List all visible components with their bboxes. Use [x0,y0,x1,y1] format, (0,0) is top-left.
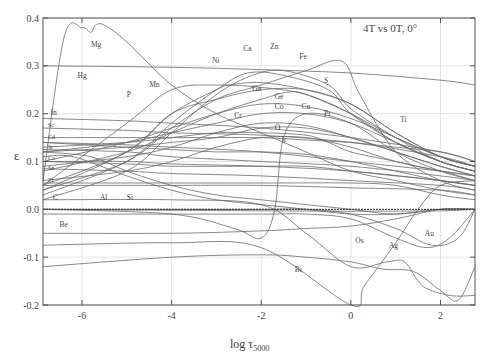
series-line-au [43,209,475,247]
x-axis-label: log τ5000 [230,337,269,353]
element-label-pr: Pr [324,109,331,118]
x-tick-label: 2 [438,310,443,321]
series-line-p [43,88,475,190]
series-line-in [43,119,475,162]
line-chart: -6-4-2020.40.30.20.10.0-0.1-0.2 MgHgMnPC… [0,0,489,362]
axis-ticks: -6-4-2020.40.30.20.10.0-0.1-0.2 [23,13,475,322]
element-label-hg: Hg [78,71,87,80]
element-label-be: Be [60,220,69,229]
element-label-cu: Cu [302,102,311,111]
element-label-co: Co [275,102,284,111]
element-label-bi: Bi [295,265,302,274]
x-axis-label-main: log τ [230,337,253,351]
y-tick-label: 0.4 [27,13,40,24]
y-tick-label: 0.2 [27,108,40,119]
element-label-ir: Ir [281,135,286,144]
element-label-ga: Ga [252,84,261,93]
element-label-os: Os [355,236,363,245]
series-line-bi [43,255,475,301]
element-label-ni: Ni [212,56,220,65]
element-label-left-co: Co [48,155,55,161]
element-label-si: Si [127,193,133,202]
element-label-s: S [324,76,328,85]
element-label-o: O [275,123,281,132]
y-tick-label: 0.0 [27,204,40,215]
element-label-c: C [53,193,58,202]
x-tick-label: -4 [167,310,175,321]
element-label-p: P [127,90,131,99]
element-label-ge: Ge [275,92,284,101]
element-label-ag: Ag [389,241,398,250]
series-line-ni [43,82,475,185]
element-label-ca: Ca [243,44,252,53]
y-tick-label: -0.1 [23,252,39,263]
element-label-al: Al [100,193,108,202]
element-label-left-cd: Cd [48,134,55,140]
element-label-in: In [51,108,57,117]
element-label-mg: Mg [91,40,102,49]
y-tick-label: -0.2 [23,300,39,311]
element-label-left-sn: Sn [48,165,54,171]
element-label-left-sr: Sr [48,144,53,150]
x-tick-label: -6 [78,310,86,321]
element-label-au: Au [425,229,434,238]
element-label-zn: Zn [270,42,279,51]
y-tick-label: 0.3 [27,60,40,71]
element-label-mn: Mn [149,80,160,89]
element-label-fe: Fe [299,52,307,61]
chart-title: 4T vs 0T, 0° [363,22,417,34]
x-tick-label: -2 [257,310,265,321]
element-label-left-zr: Zr [48,177,54,183]
series-line-zr [43,185,475,195]
element-label-left-sc: Sc [48,122,54,128]
x-axis-label-sub: 5000 [253,344,269,353]
element-label-ti: Ti [400,115,406,124]
y-tick-label: 0.1 [27,156,40,167]
y-axis-label: ε [14,148,20,163]
element-label-cr: Cr [234,111,242,120]
x-tick-label: 0 [348,310,353,321]
